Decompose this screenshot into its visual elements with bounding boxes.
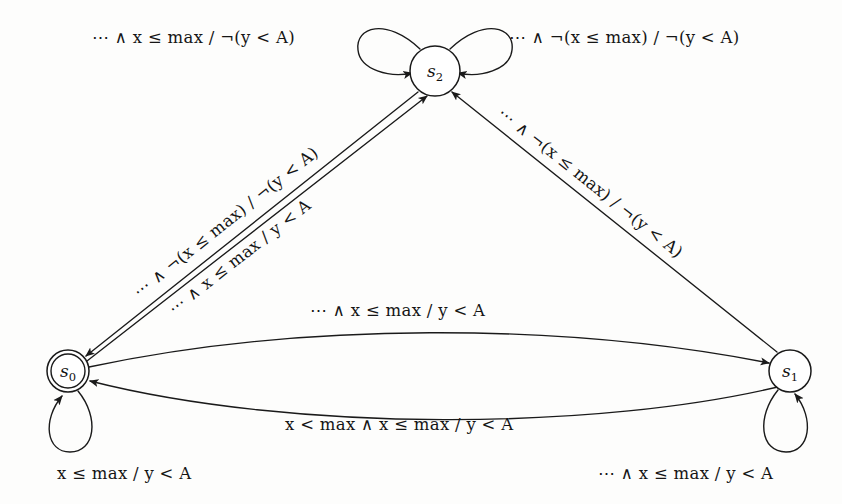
state-node-s0[interactable]: s0 xyxy=(47,350,89,392)
edge-s1-to-s2 xyxy=(452,92,777,352)
transition-label-s1-self-loop: ⋯ ∧ x ≤ max / y < A xyxy=(598,466,773,483)
edge-s1-to-s0 xyxy=(90,381,790,420)
edge-s0-to-s2 xyxy=(87,96,427,361)
transition-label-s1-to-s0: x < max ∧ x ≤ max / y < A xyxy=(285,417,514,434)
edge-s0-self-loop xyxy=(49,391,92,452)
transition-label-s2-self-loop-left: ⋯ ∧ x ≤ max / ¬(y < A) xyxy=(92,30,295,47)
edge-s1-self-loop xyxy=(764,390,808,452)
transition-label-s2-self-loop-right: ⋯ ∧ ¬(x ≤ max) / ¬(y < A) xyxy=(509,30,739,47)
transition-label-s0-self-loop: x ≤ max / y < A xyxy=(57,466,192,483)
transition-label-s0-to-s1: ⋯ ∧ x ≤ max / y < A xyxy=(310,303,485,320)
edge-s0-to-s1 xyxy=(89,333,769,367)
state-node-s2[interactable]: s2 xyxy=(410,46,460,96)
state-machine-diagram: s0 s1 s2 ⋯ ∧ x ≤ max / ¬(y < A) ⋯ ∧ ¬(x … xyxy=(0,0,842,504)
state-node-s1[interactable]: s1 xyxy=(769,350,811,392)
